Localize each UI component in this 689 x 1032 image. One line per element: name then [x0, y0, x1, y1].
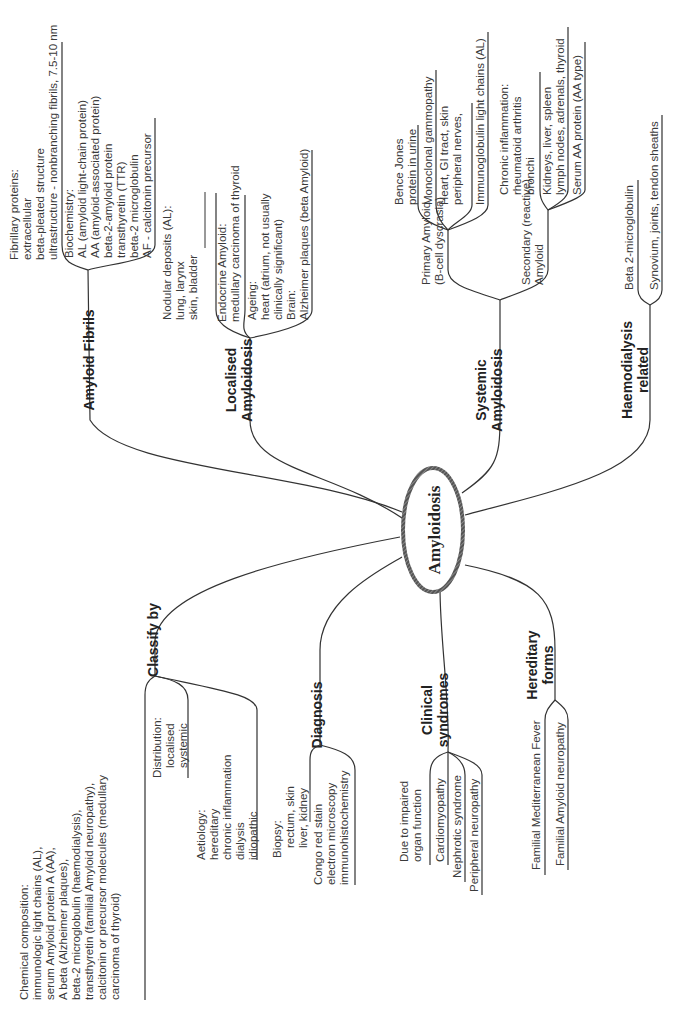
familial-mediterranean-fever-text: Familial Mediterranean Fever — [530, 720, 542, 870]
svg-text:immunologic light chains (AL),: immunologic light chains (AL), — [31, 847, 43, 1000]
svg-text:clinically significant): clinically significant) — [272, 219, 284, 320]
branch-diagnosis[interactable]: Diagnosis Biopsy: rectum, skin liver, ki… — [271, 681, 355, 885]
svg-text:beta-pleated structure: beta-pleated structure — [34, 148, 46, 260]
svg-text:Kidneys, liver, spleen: Kidneys, liver, spleen — [541, 87, 553, 195]
svg-text:(B-cell dyscrasia): (B-cell dyscrasia) — [433, 197, 445, 285]
svg-text:Fibrillary proteins:: Fibrillary proteins: — [8, 169, 20, 260]
nephrotic-syndrome-text: Nephrotic syndrome — [451, 775, 463, 878]
svg-text:hereditary: hereditary — [208, 809, 220, 860]
svg-text:Amyloid: Amyloid — [533, 244, 545, 285]
nodular-deposits-text: Nodular deposits (AL): lung, larynx skin… — [161, 206, 199, 320]
beta2-microglobulin-text: Beta 2-microglobulin — [623, 185, 635, 290]
chemical-composition-text: Chemical composition: immunologic light … — [18, 775, 121, 1000]
svg-text:syndromes: syndromes — [435, 672, 451, 747]
branch-classify-by[interactable]: Classify by Chemical composition: immuno… — [18, 603, 259, 1000]
svg-text:beta-2-amyloid protein: beta-2-amyloid protein — [102, 144, 114, 258]
svg-text:dialysis: dialysis — [234, 822, 246, 860]
svg-text:Bence Jones: Bence Jones — [393, 138, 405, 205]
svg-text:Distribution:: Distribution: — [151, 717, 163, 778]
svg-text:related: related — [635, 347, 651, 393]
svg-text:Monoclonal gammopathy: Monoclonal gammopathy — [422, 76, 434, 205]
svg-text:Synovium, joints, tendon sheat: Synovium, joints, tendon sheaths — [648, 121, 660, 290]
svg-text:immunohistochemistry: immunohistochemistry — [338, 770, 350, 885]
svg-text:forms: forms — [540, 645, 556, 684]
branch-clinical-syndromes[interactable]: Clinical syndromes Due to impaired organ… — [398, 672, 482, 895]
svg-text:transthyretin (TTR): transthyretin (TTR) — [115, 161, 127, 258]
fibrillary-proteins-text: Fibrillary proteins: extracellular beta-… — [8, 25, 59, 260]
svg-text:electron microscopy: electron microscopy — [325, 782, 337, 885]
branch-systemic-amyloidosis[interactable]: Systemic Amyloidosis Primary Amyloid (B-… — [393, 27, 585, 432]
svg-text:Alzheimer plaques (beta Amyloi: Alzheimer plaques (beta Amyloid) — [298, 149, 310, 320]
svg-text:bronchi: bronchi — [524, 157, 536, 195]
mind-map: Amyloidosis Amyloid Fibrils Fibrillary p… — [0, 0, 689, 1032]
endocrine-amyloid-text: Endocrine Amyloid: medullary carcinoma o… — [216, 165, 241, 322]
svg-text:Clinical: Clinical — [419, 685, 435, 735]
svg-text:beta-2 microglobulin: beta-2 microglobulin — [128, 154, 140, 258]
branch-localised-amyloidosis[interactable]: Localised Amyloidosis Nodular deposits (… — [161, 149, 312, 422]
svg-text:Chronic inflammation:: Chronic inflammation: — [498, 84, 510, 195]
center-label: Amyloidosis — [425, 485, 444, 574]
branch-label: Amyloid Fibrils — [81, 309, 97, 410]
svg-text:idiopathic: idiopathic — [247, 811, 259, 860]
branch-label: Clinical syndromes — [419, 672, 451, 747]
familial-amyloid-neuropathy-text: Familial Amyloid neuropathy — [554, 722, 566, 866]
svg-text:Systemic: Systemic — [473, 359, 489, 421]
svg-text:Biopsy:: Biopsy: — [271, 820, 283, 858]
branch-hereditary-forms[interactable]: Hereditary forms Familial Mediterranean … — [524, 630, 568, 875]
svg-text:Heart, GI tract, skin: Heart, GI tract, skin — [438, 106, 450, 205]
svg-text:Amyloidosis: Amyloidosis — [239, 338, 255, 421]
svg-text:Biochemistry:: Biochemistry: — [63, 189, 75, 258]
svg-text:rectum, skin: rectum, skin — [284, 786, 296, 848]
svg-text:Ageing:: Ageing: — [246, 281, 258, 320]
branch-label: Haemodialysis related — [619, 321, 651, 419]
biopsy-text: Biopsy: rectum, skin liver, kidney — [271, 786, 309, 858]
svg-text:Congo red stain: Congo red stain — [312, 804, 324, 885]
immunoglobulin-text: Immunoglobulin light chains (AL) — [474, 38, 486, 205]
svg-text:heart (atrium, not usually: heart (atrium, not usually — [259, 193, 271, 320]
svg-text:Haemodialysis: Haemodialysis — [619, 321, 635, 419]
svg-text:lymph nodes, adrenals, thyroid: lymph nodes, adrenals, thyroid — [554, 38, 566, 195]
svg-text:protein in urine: protein in urine — [406, 129, 418, 205]
branch-haemodialysis[interactable]: Haemodialysis related Beta 2-microglobul… — [619, 115, 662, 419]
svg-text:Endocrine Amyloid:: Endocrine Amyloid: — [216, 224, 228, 322]
congo-red-text: Congo red stain electron microscopy immu… — [312, 770, 350, 885]
svg-text:Serum AA protein (AA type): Serum AA protein (AA type) — [571, 55, 583, 195]
distribution-text: Distribution: localised systemic — [151, 717, 189, 778]
ageing-text: Ageing: heart (atrium, not usually clini… — [246, 149, 310, 320]
svg-text:AA (amyloid-associated protei: AA (amyloid-associated protein) — [89, 95, 101, 258]
svg-text:Localised: Localised — [223, 348, 239, 413]
svg-text:rheumatoid arthritis: rheumatoid arthritis — [511, 96, 523, 195]
svg-text:chronic inflammation: chronic inflammation — [221, 755, 233, 860]
svg-text:Familial Amyloid neuropathy: Familial Amyloid neuropathy — [554, 722, 566, 866]
peripheral-neuropathy-text: Peripheral neuropathy — [468, 779, 480, 892]
svg-text:Due to impaired: Due to impaired — [398, 781, 410, 862]
svg-text:Chemical composition:: Chemical composition: — [18, 884, 30, 1000]
due-to-impaired-text: Due to impaired organ function — [398, 781, 423, 862]
svg-text:organ function: organ function — [411, 789, 423, 862]
svg-text:Hereditary: Hereditary — [524, 630, 540, 699]
svg-text:liver, kidney: liver, kidney — [297, 788, 309, 848]
svg-text:peripheral nerves,: peripheral nerves, — [451, 113, 463, 205]
serum-aa-text: Serum AA protein (AA type) — [571, 55, 583, 195]
svg-text:Nephrotic syndrome: Nephrotic syndrome — [451, 775, 463, 878]
center-node[interactable]: Amyloidosis — [403, 468, 463, 592]
primary-amyloid-text: Primary Amyloid (B-cell dyscrasia) — [420, 197, 445, 285]
svg-text:Peripheral neuropathy: Peripheral neuropathy — [468, 779, 480, 892]
svg-text:extracellular: extracellular — [21, 198, 33, 260]
branch-amyloid-fibrils[interactable]: Amyloid Fibrils Fibrillary proteins: ext… — [8, 25, 155, 411]
branch-label: Diagnosis — [309, 681, 325, 748]
biochemistry-text: Biochemistry: AL (amyloid light-chain pr… — [63, 95, 153, 258]
kidneys-liver-text: Kidneys, liver, spleen lymph nodes, adre… — [541, 38, 566, 195]
svg-text:Cardiomyopathy: Cardiomyopathy — [434, 778, 446, 862]
svg-text:beta-2 microglobulin (haemodia: beta-2 microglobulin (haemodialysis), — [70, 810, 82, 1000]
svg-text:ultrastructure - nonbranching: ultrastructure - nonbranching fibrils, 7… — [47, 25, 59, 260]
svg-text:serum Amyloid protein A (AA),: serum Amyloid protein A (AA), — [44, 847, 56, 1000]
svg-text:Nodular deposits (AL):: Nodular deposits (AL): — [161, 206, 173, 320]
svg-text:Beta 2-microglobulin: Beta 2-microglobulin — [623, 185, 635, 290]
branch-label: Classify by — [145, 603, 161, 677]
chronic-inflammation-text: Chronic inflammation: rheumatoid arthrit… — [498, 84, 536, 195]
svg-text:systemic: systemic — [177, 723, 189, 768]
svg-text:transthyretin (familial Amyloi: transthyretin (familial Amyloid neuropat… — [83, 783, 95, 1000]
svg-text:A beta (Alzheimer plaques),: A beta (Alzheimer plaques), — [57, 859, 69, 1000]
branch-label: Localised Amyloidosis — [223, 338, 255, 421]
